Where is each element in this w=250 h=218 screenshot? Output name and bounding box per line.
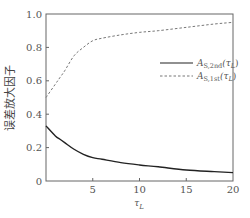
x-axis-label: τL (134, 198, 144, 211)
y-tick-label: 0.8 (26, 42, 42, 53)
chart: 00.20.40.60.81.0 5101520 AS,2nd(τL) AS,1… (0, 0, 250, 218)
x-tick-label: 15 (180, 184, 193, 195)
y-axis-label: 误差放大因子 (3, 65, 17, 131)
x-tick-label: 5 (90, 184, 96, 195)
y-tick-label: 0.2 (26, 142, 42, 153)
plot-border (46, 14, 233, 181)
y-tick-label: 1.0 (26, 9, 42, 20)
y-tick-label: 0.4 (26, 109, 42, 120)
x-tick-label: 20 (227, 184, 240, 195)
legend-label-2nd: AS,2nd(τL) (196, 58, 239, 70)
series-line-2nd (46, 126, 233, 173)
y-tick-label: 0 (36, 176, 42, 187)
legend-label-1st: AS,1st(τL) (196, 71, 236, 83)
x-tick-label: 10 (133, 184, 146, 195)
series-layer (46, 22, 233, 172)
series-line-1st (46, 22, 233, 97)
legend: AS,2nd(τL) AS,1st(τL) (160, 58, 239, 83)
plot-frame (46, 14, 233, 181)
y-tick-label: 0.6 (26, 75, 42, 86)
